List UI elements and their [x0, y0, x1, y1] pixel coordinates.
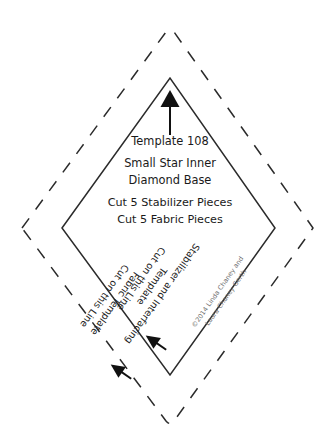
outer-dashed-diamond	[22, 30, 313, 424]
template-diagram: Template 108 Small Star Inner Diamond Ba…	[0, 0, 331, 444]
cut-instruction-fabric: Cut 5 Fabric Pieces	[117, 213, 223, 226]
cut-instruction-stabilizer: Cut 5 Stabilizer Pieces	[108, 196, 233, 209]
pattern-sheet: Template 108 Small Star Inner Diamond Ba…	[0, 0, 331, 444]
template-number-label: Template 108	[130, 134, 208, 148]
template-name-line-2: Diamond Base	[129, 173, 212, 187]
arrow-down-left-icon-outer	[107, 359, 135, 384]
credit-line-1: ©2014 Linda Chaney and	[190, 255, 245, 329]
template-name-line-1: Small Star Inner	[124, 156, 216, 170]
up-arrow-icon	[161, 90, 180, 135]
